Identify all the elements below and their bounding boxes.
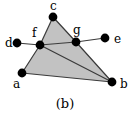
node-d [13,39,22,48]
node-label-e: e [114,32,121,46]
node-f [36,41,45,50]
node-b [108,78,117,87]
node-e [101,34,110,43]
figure-caption: (b) [0,96,130,111]
node-label-f: f [32,26,38,40]
figure-container: abcdefg (b) [0,0,130,119]
node-label-d: d [5,36,13,50]
node-label-a: a [13,77,20,91]
node-c [49,13,58,22]
node-label-c: c [50,0,57,13]
node-label-b: b [120,77,128,91]
node-label-g: g [73,23,81,37]
node-g [72,38,81,47]
quad-f-g-b-a [22,42,112,82]
triangle-c-f-g [40,17,76,45]
